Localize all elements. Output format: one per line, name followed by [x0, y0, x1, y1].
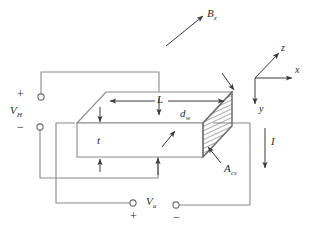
hall-effect-diagram	[0, 0, 314, 235]
label-magnetic-field: Bz	[207, 8, 217, 22]
sign-applied-positive: +	[130, 210, 137, 222]
label-axis-y: y	[259, 104, 263, 114]
label-width: dw	[180, 108, 190, 122]
arrow-width	[222, 73, 234, 90]
sign-hall-positive: +	[17, 88, 24, 100]
label-axis-x: x	[295, 65, 299, 75]
sign-hall-negative: −	[17, 121, 24, 133]
sign-applied-negative: −	[173, 211, 180, 223]
slab-front-face	[77, 123, 203, 157]
terminal-applied-positive	[130, 200, 136, 206]
arrow-cross-section	[208, 147, 221, 163]
terminal-hall-positive	[38, 94, 44, 100]
label-axis-z: z	[281, 43, 285, 53]
label-applied-voltage: Va	[146, 196, 156, 210]
label-cross-section: Acs	[224, 163, 237, 177]
label-current: I	[271, 136, 275, 147]
axis-z-line	[255, 53, 279, 78]
terminal-hall-negative	[37, 124, 43, 130]
figure-canvas: Bz L dw t Acs VH Va I z x y + − + −	[0, 0, 314, 235]
coordinate-axes	[255, 53, 292, 104]
label-hall-voltage: VH	[10, 105, 22, 119]
terminal-applied-negative	[173, 202, 179, 208]
magnetic-field-vector	[166, 16, 203, 46]
label-thickness: t	[97, 135, 100, 146]
hall-voltage-terminals	[37, 94, 44, 130]
label-length: L	[157, 94, 163, 105]
